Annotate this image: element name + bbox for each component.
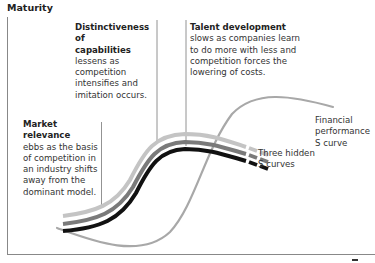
dash-light-1 [249,148,257,151]
annotation-line: slows as companies learn [190,33,315,44]
annotation-line: competition forces the [190,56,315,67]
annotation-line: to do more with less and [190,45,315,56]
label-line: Three hidden [258,148,315,159]
hidden-curves-label: Three hidden S curves [258,148,315,171]
annotation-line: of competition in [23,153,103,164]
label-line: S curves [258,159,315,170]
annotation-talent-development: Talent development slows as companies le… [190,22,315,78]
annotation-line: competition [75,67,155,78]
annotation-line: ebbs as the basis [23,142,103,153]
dash-dark-1 [249,162,257,165]
annotation-heading: Talent development [190,22,315,33]
dash-mid-1 [249,155,257,158]
annotation-heading: capabilities [75,45,155,56]
annotation-line: lowering of costs. [190,67,315,78]
financial-curve-label: Financial performance S curve [315,115,370,149]
label-line: performance [315,126,370,137]
annotation-line: dominant model. [23,187,103,198]
annotation-line: away from the [23,175,103,186]
annotation-heading: Market relevance [23,119,103,142]
annotation-line: lessens as [75,56,155,67]
annotation-market-relevance: Market relevance ebbs as the basis of co… [23,119,103,198]
label-line: Financial [315,115,370,126]
label-line: S curve [315,138,370,149]
annotation-line: imitation occurs. [75,90,155,101]
annotation-heading: Distinctiveness of [75,22,155,45]
annotation-line: an industry shifts [23,164,103,175]
annotation-distinctiveness: Distinctiveness of capabilities lessens … [75,22,155,101]
annotation-line: intensifies and [75,78,155,89]
corner-mark [352,259,358,261]
